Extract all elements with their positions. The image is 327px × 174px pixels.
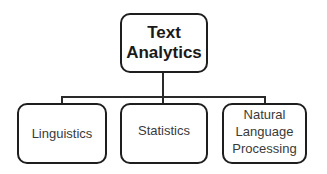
connector-stem xyxy=(162,73,164,104)
root-node-text-analytics: Text Analytics xyxy=(120,13,208,73)
child-node-linguistics: Linguistics xyxy=(17,103,107,164)
child-node-label: Statistics xyxy=(138,122,190,139)
child-node-label: Linguistics xyxy=(32,125,93,142)
child-node-label: Natural Language Processing xyxy=(232,106,296,157)
root-node-label: Text Analytics xyxy=(126,23,202,63)
connector-bus xyxy=(61,96,266,98)
child-node-statistics: Statistics xyxy=(120,103,208,164)
child-node-natural-language-processing: Natural Language Processing xyxy=(222,103,307,164)
